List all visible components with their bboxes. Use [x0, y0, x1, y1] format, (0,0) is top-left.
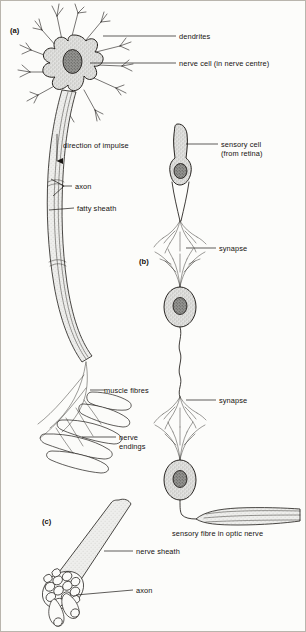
leader-axon-bottom [76, 590, 133, 595]
motor-neurone-nucleus [63, 50, 82, 74]
relay-neurone-axon [179, 327, 181, 397]
label-sensory-cell-line1: sensory cell [221, 140, 261, 149]
optic-nerve-fibre [196, 508, 300, 525]
neuron-diagram: (a) dendrites [0, 0, 306, 632]
section-b-sensory-chain: (b) sensory cell (from retina) [139, 124, 300, 538]
label-fatty-sheath: fatty sheath [77, 204, 116, 213]
label-muscle-fibres: muscle fibres [104, 386, 149, 395]
label-dendrites: dendrites [179, 32, 211, 41]
synapse-lower-terminals [154, 397, 206, 429]
section-label-c: (c) [42, 517, 52, 526]
label-nerve-sheath: nerve sheath [136, 547, 180, 556]
figure-root: (a) dendrites [0, 0, 306, 632]
sensory-cell-taper [172, 182, 189, 221]
synapse-upper-dendrites [155, 249, 205, 287]
label-synapse-lower: synapse [219, 396, 247, 405]
label-axon-top: axon [75, 182, 91, 191]
label-nerve-endings-line1: nerve [119, 433, 138, 442]
sensory-cell-nucleus [174, 164, 187, 179]
label-nerve-endings-line2: endings [119, 442, 146, 451]
axon-fatty-sheath [47, 90, 92, 362]
label-axon-bottom: axon [136, 586, 152, 595]
section-c-nerve-sheath: (c) [35, 499, 180, 628]
label-nerve-cell: nerve cell (in nerve centre) [179, 59, 269, 68]
optic-neurone-nucleus [173, 471, 187, 488]
section-label-b: (b) [139, 257, 149, 266]
label-direction-of-impulse: direction of impulse [63, 141, 129, 150]
label-sensory-fibre: sensory fibre in optic nerve [172, 529, 263, 538]
muscle-fibres [40, 392, 131, 473]
synapse-lower-dendrites [155, 422, 205, 460]
section-label-a: (a) [10, 26, 20, 35]
relay-neurone-nucleus [173, 298, 187, 315]
label-sensory-cell-line2: (from retina) [221, 149, 263, 158]
label-synapse-upper: synapse [219, 244, 247, 253]
optic-nerve-axon [180, 500, 196, 519]
